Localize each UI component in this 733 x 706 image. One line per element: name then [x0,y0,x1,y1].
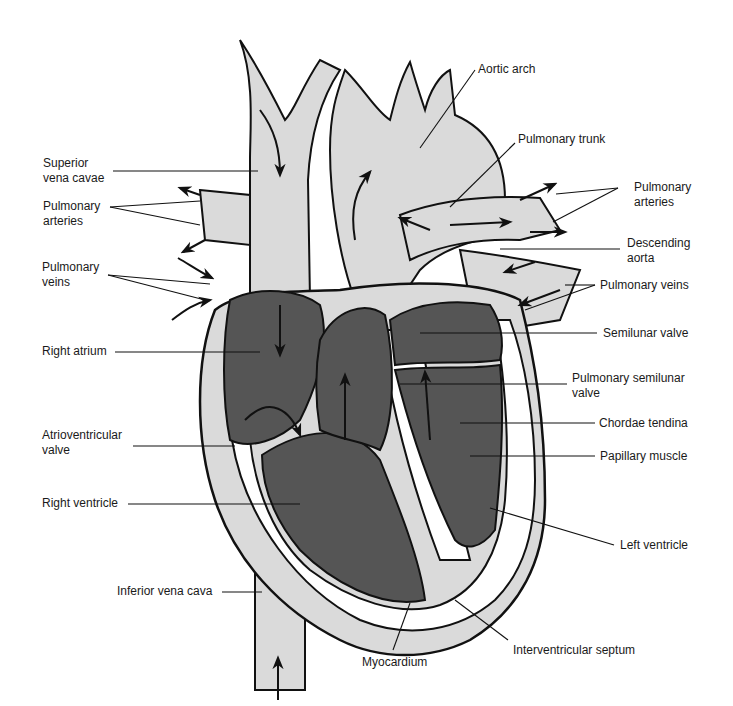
label-chordae-tendina: Chordae tendina [599,416,688,431]
label-semilunar-valve: Semilunar valve [603,326,688,341]
label-interventricular-septum: Interventricular septum [513,643,635,658]
flow-arrow-pulm-art-l1 [180,188,200,195]
label-right-ventricle: Right ventricle [42,496,118,511]
flow-arrow-pulm-vein-l2 [172,300,210,320]
heart-illustration [0,0,733,706]
label-descending-aorta: Descending aorta [627,236,690,266]
label-pulmonary-arteries-right: Pulmonary arteries [634,180,691,210]
left-atrium-chamber [390,302,502,365]
label-papillary-muscle: Papillary muscle [600,449,687,464]
label-pulmonary-semilunar-valve: Pulmonary semilunar valve [572,371,685,401]
label-myocardium: Myocardium [362,655,427,670]
label-left-ventricle: Left ventricle [620,538,688,553]
label-pulmonary-trunk: Pulmonary trunk [518,132,605,147]
flow-arrow-pulm-art-l2 [183,240,205,252]
flow-arrow-pulm-vein-l1 [178,258,212,278]
label-right-atrium: Right atrium [42,344,107,359]
label-pulmonary-veins-right: Pulmonary veins [600,278,689,293]
label-aortic-arch: Aortic arch [478,62,535,77]
label-pulmonary-veins-left: Pulmonary veins [42,260,99,290]
label-atrioventricular-valve: Atrioventricular valve [42,428,122,458]
label-pulmonary-arteries-left: Pulmonary arteries [43,199,100,229]
pulmonary-outflow-chamber [316,308,392,450]
label-superior-vena-cavae: Superior vena cavae [43,156,104,186]
label-inferior-vena-cava: Inferior vena cava [117,584,212,599]
